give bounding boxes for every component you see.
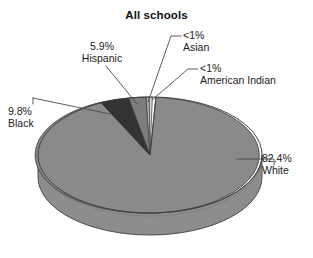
slice-label-asian-percent: <1%	[183, 29, 209, 41]
slice-label-asian: <1% Asian	[183, 29, 209, 53]
slice-label-hispanic-name: Hispanic	[63, 52, 141, 64]
slice-label-american-indian-percent: <1%	[200, 62, 276, 74]
leader-line-american-indian	[152, 69, 198, 100]
pie-chart-graphic	[0, 0, 313, 258]
leader-line-asian	[148, 36, 181, 102]
slice-label-black-percent: 9.8%	[8, 105, 34, 117]
slice-label-white: 82.4% White	[262, 152, 292, 176]
slice-label-asian-name: Asian	[183, 41, 209, 53]
slice-label-white-percent: 82.4%	[262, 152, 292, 164]
slice-label-american-indian-name: American Indian	[200, 74, 276, 86]
slice-label-american-indian: <1% American Indian	[200, 62, 276, 86]
slice-label-black: 9.8% Black	[8, 105, 34, 129]
slice-label-hispanic-percent: 5.9%	[63, 40, 141, 52]
pie-top-face	[35, 97, 262, 213]
slice-label-white-name: White	[262, 164, 292, 176]
slice-label-hispanic: 5.9% Hispanic	[63, 40, 141, 64]
slice-label-black-name: Black	[8, 117, 34, 129]
pie-chart-figure: All schools	[0, 0, 313, 258]
